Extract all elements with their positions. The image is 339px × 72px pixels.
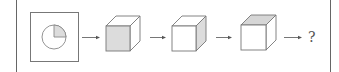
cube-3-top-shaded <box>241 15 276 50</box>
question-mark: ? <box>308 29 316 45</box>
shaded-quarter <box>54 25 66 37</box>
cube-2-right-shaded <box>172 16 206 51</box>
arrow-1 <box>82 36 100 39</box>
arrow-4 <box>284 36 302 39</box>
sequence-diagram: ? <box>0 0 339 72</box>
framed-circle <box>31 13 79 62</box>
arrow-3 <box>216 36 232 39</box>
cube-1-front-shaded <box>106 16 140 51</box>
arrow-2 <box>150 36 166 39</box>
